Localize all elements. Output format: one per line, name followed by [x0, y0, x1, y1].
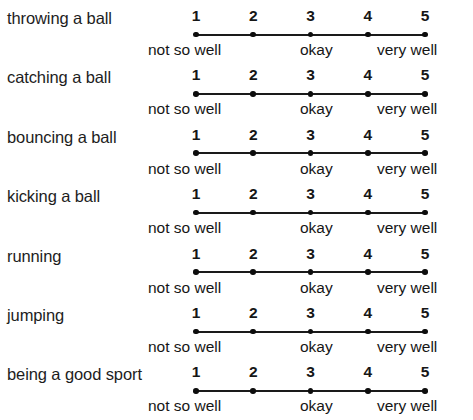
scale-tick-label: 1: [181, 66, 211, 84]
scale-point-dot[interactable]: [308, 210, 314, 216]
scale-point-dot[interactable]: [365, 210, 371, 216]
scale-tick-labels: 12345: [196, 304, 425, 322]
rating-item-label: throwing a ball: [7, 8, 187, 28]
scale-tick-label: 4: [353, 185, 383, 203]
rating-item-row: running12345not so wellokayvery well: [0, 240, 473, 299]
scale-tick-label: 4: [353, 304, 383, 322]
scale-tick-labels: 12345: [196, 7, 425, 25]
scale-tick-label: 3: [296, 363, 326, 381]
scale-anchor-low: not so well: [148, 218, 221, 238]
scale-anchor-low: not so well: [148, 99, 221, 119]
scale-anchor-labels: not so wellokayvery well: [148, 396, 473, 416]
scale-axis: [196, 92, 425, 95]
scale-point-dot[interactable]: [365, 329, 371, 335]
scale-axis: [196, 271, 425, 274]
scale-anchor-low: not so well: [148, 396, 221, 416]
scale-anchor-high: very well: [377, 337, 437, 357]
scale-tick-label: 5: [410, 126, 440, 144]
rating-item-row: kicking a ball12345not so wellokayvery w…: [0, 180, 473, 239]
scale-anchor-high: very well: [377, 40, 437, 60]
scale-tick-label: 1: [181, 126, 211, 144]
scale-point-dot[interactable]: [193, 91, 199, 97]
scale-tick-labels: 12345: [196, 66, 425, 84]
scale-tick-label: 3: [296, 185, 326, 203]
scale-axis: [196, 389, 425, 392]
scale-tick-labels: 12345: [196, 126, 425, 144]
scale-tick-label: 5: [410, 245, 440, 263]
scale-tick-label: 4: [353, 66, 383, 84]
scale-point-dot[interactable]: [422, 269, 428, 275]
scale-point-dot[interactable]: [422, 91, 428, 97]
scale-tick-label: 2: [238, 363, 268, 381]
scale-tick-label: 4: [353, 126, 383, 144]
scale-axis: [196, 211, 425, 214]
rating-item-label: kicking a ball: [7, 186, 187, 206]
rating-scale-sheet: throwing a ball12345not so wellokayvery …: [0, 0, 473, 420]
scale-point-dot[interactable]: [365, 269, 371, 275]
scale-anchor-mid: okay: [300, 159, 333, 179]
scale-tick-label: 1: [181, 7, 211, 25]
scale-point-dot[interactable]: [308, 150, 314, 156]
scale-point-dot[interactable]: [422, 329, 428, 335]
scale-tick-label: 2: [238, 245, 268, 263]
rating-item-label: bouncing a ball: [7, 127, 187, 147]
scale-point-dot[interactable]: [250, 32, 256, 38]
scale-point-dot[interactable]: [422, 150, 428, 156]
scale-anchor-high: very well: [377, 218, 437, 238]
scale-point-dot[interactable]: [250, 329, 256, 335]
scale-tick-label: 2: [238, 7, 268, 25]
scale-anchor-low: not so well: [148, 40, 221, 60]
scale-tick-label: 5: [410, 185, 440, 203]
rating-scale[interactable]: 12345not so wellokayvery well: [196, 240, 425, 299]
scale-point-dot[interactable]: [308, 329, 314, 335]
scale-anchor-labels: not so wellokayvery well: [148, 337, 473, 357]
scale-point-dot[interactable]: [193, 329, 199, 335]
scale-point-dot[interactable]: [308, 269, 314, 275]
scale-point-dot[interactable]: [193, 388, 199, 394]
rating-scale[interactable]: 12345not so wellokayvery well: [196, 299, 425, 358]
scale-tick-label: 5: [410, 363, 440, 381]
scale-tick-label: 4: [353, 363, 383, 381]
scale-tick-label: 1: [181, 245, 211, 263]
scale-anchor-low: not so well: [148, 159, 221, 179]
scale-anchor-high: very well: [377, 159, 437, 179]
rating-scale[interactable]: 12345not so wellokayvery well: [196, 2, 425, 61]
rating-scale[interactable]: 12345not so wellokayvery well: [196, 180, 425, 239]
rating-item-row: catching a ball12345not so wellokayvery …: [0, 61, 473, 120]
scale-point-dot[interactable]: [422, 388, 428, 394]
scale-point-dot[interactable]: [193, 150, 199, 156]
scale-anchor-mid: okay: [300, 99, 333, 119]
scale-point-dot[interactable]: [250, 269, 256, 275]
scale-tick-label: 1: [181, 363, 211, 381]
scale-point-dot[interactable]: [193, 269, 199, 275]
scale-tick-label: 4: [353, 7, 383, 25]
scale-point-dot[interactable]: [422, 210, 428, 216]
scale-point-dot[interactable]: [365, 91, 371, 97]
rating-item-label: jumping: [7, 305, 187, 325]
scale-point-dot[interactable]: [250, 388, 256, 394]
rating-item-row: being a good sport12345not so wellokayve…: [0, 358, 473, 417]
scale-anchor-low: not so well: [148, 278, 221, 298]
scale-point-dot[interactable]: [308, 32, 314, 38]
scale-point-dot[interactable]: [308, 91, 314, 97]
scale-tick-label: 3: [296, 7, 326, 25]
scale-anchor-low: not so well: [148, 337, 221, 357]
scale-tick-label: 2: [238, 66, 268, 84]
scale-tick-label: 4: [353, 245, 383, 263]
scale-point-dot[interactable]: [365, 388, 371, 394]
scale-point-dot[interactable]: [250, 91, 256, 97]
scale-point-dot[interactable]: [250, 210, 256, 216]
rating-scale[interactable]: 12345not so wellokayvery well: [196, 61, 425, 120]
scale-anchor-labels: not so wellokayvery well: [148, 159, 473, 179]
rating-scale[interactable]: 12345not so wellokayvery well: [196, 358, 425, 417]
scale-point-dot[interactable]: [193, 32, 199, 38]
scale-point-dot[interactable]: [365, 32, 371, 38]
rating-scale[interactable]: 12345not so wellokayvery well: [196, 121, 425, 180]
scale-point-dot[interactable]: [365, 150, 371, 156]
scale-point-dot[interactable]: [193, 210, 199, 216]
scale-point-dot[interactable]: [308, 388, 314, 394]
scale-tick-label: 5: [410, 66, 440, 84]
scale-tick-labels: 12345: [196, 185, 425, 203]
scale-point-dot[interactable]: [422, 32, 428, 38]
scale-point-dot[interactable]: [250, 150, 256, 156]
